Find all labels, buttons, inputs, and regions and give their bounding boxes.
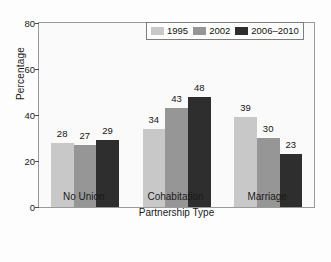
legend-label: 2002: [209, 26, 230, 36]
bar-value-label: 39: [240, 103, 251, 113]
bar-value-label: 34: [149, 115, 160, 125]
bar-group-bars: 282729: [51, 23, 119, 207]
bar-value-label: 23: [286, 140, 297, 150]
bar-value-label: 30: [263, 124, 274, 134]
bar-value-label: 43: [171, 94, 182, 104]
legend-entry[interactable]: 2006–2010: [235, 26, 299, 36]
bar-value-label: 29: [102, 126, 113, 136]
y-tick-mark: [35, 161, 39, 162]
y-tick-label: 60: [17, 65, 35, 74]
chart-legend: 199520022006–2010: [146, 22, 304, 40]
plot-inner: 020406080 282729344348393023: [39, 23, 314, 207]
y-tick-mark: [35, 23, 39, 24]
legend-label: 1995: [167, 26, 188, 36]
y-tick-label: 40: [17, 111, 35, 120]
bar-slot: 29: [96, 23, 119, 207]
bar-slot: 39: [234, 23, 257, 207]
bar-group-bars: 344348: [143, 23, 211, 207]
legend-entry[interactable]: 1995: [151, 26, 188, 36]
bar-slot: 28: [51, 23, 74, 207]
legend-swatch: [193, 27, 206, 35]
bar-value-label: 48: [194, 83, 205, 93]
x-tick-label: Marriage: [207, 191, 327, 202]
bar-chart-figure: Percentage 020406080 282729344348393023 …: [0, 0, 331, 262]
y-tick-mark: [35, 69, 39, 70]
bar-group: 393023: [234, 23, 302, 207]
bar-slot: 30: [257, 23, 280, 207]
y-tick-label: 0: [17, 203, 35, 212]
y-tick-mark: [35, 115, 39, 116]
legend-swatch: [235, 27, 248, 35]
bar-group-bars: 393023: [234, 23, 302, 207]
bar-value-label: 27: [80, 131, 91, 141]
bar-slot: 27: [74, 23, 97, 207]
y-tick-label: 20: [17, 157, 35, 166]
legend-label: 2006–2010: [251, 26, 299, 36]
bar-slot: 43: [165, 23, 188, 207]
bar-slot: 23: [280, 23, 303, 207]
legend-entry[interactable]: 2002: [193, 26, 230, 36]
bar-slot: 34: [143, 23, 166, 207]
bar-value-label: 28: [57, 129, 68, 139]
plot-area: 020406080 282729344348393023: [38, 22, 315, 208]
bar-group: 282729: [51, 23, 119, 207]
bar-slot: 48: [188, 23, 211, 207]
legend-swatch: [151, 27, 164, 35]
x-axis-title: Partnership Type: [38, 207, 315, 218]
bar-group: 344348: [143, 23, 211, 207]
y-tick-label: 80: [17, 19, 35, 28]
